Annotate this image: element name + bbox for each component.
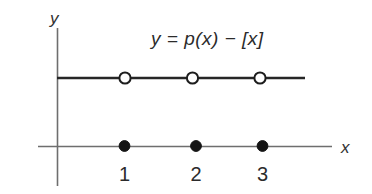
open-point-x1	[119, 72, 130, 83]
equation-annotation: y = p(x) − [x]	[149, 28, 264, 49]
open-point-x3	[254, 72, 265, 83]
y-axis-label: y	[49, 9, 60, 28]
x-tick-label-2: 2	[190, 163, 201, 185]
x-tick-label-1: 1	[119, 163, 130, 185]
open-point-x2	[187, 72, 198, 83]
x-tick-label-3: 3	[257, 163, 268, 185]
function-graph-figure: y x y = p(x) − [x] 1 2 3	[0, 0, 372, 194]
x-axis-label: x	[340, 138, 350, 157]
closed-point-x3	[257, 141, 268, 152]
closed-point-x2	[191, 141, 202, 152]
closed-point-x1	[119, 141, 130, 152]
